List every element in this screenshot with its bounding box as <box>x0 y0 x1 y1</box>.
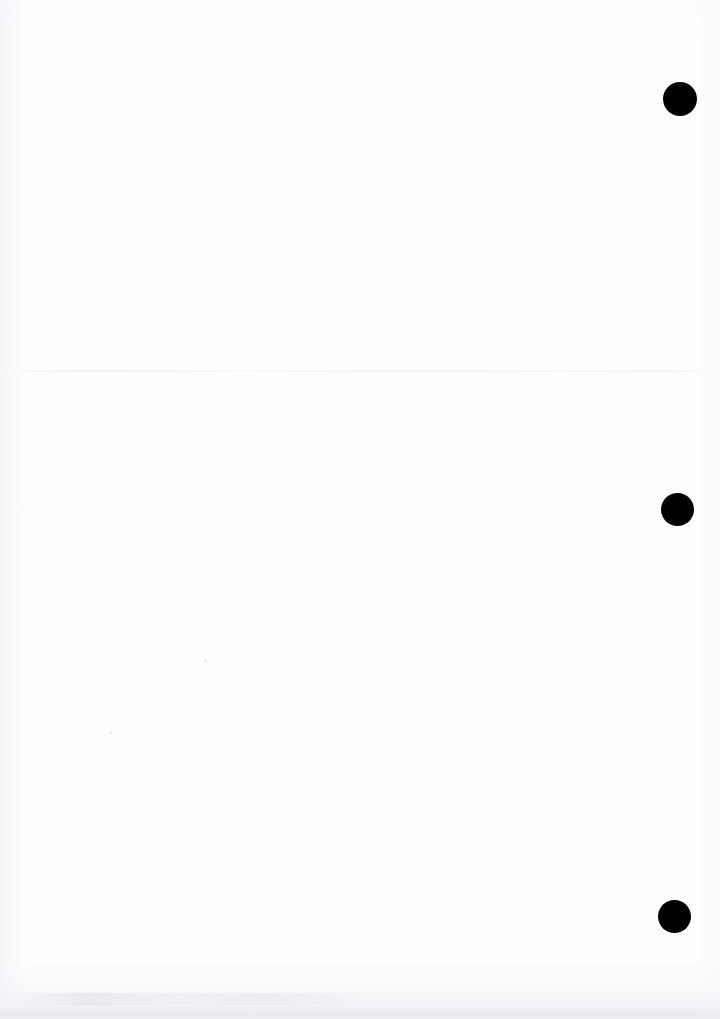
registration-mark-dot <box>658 900 691 933</box>
scanned-page <box>0 0 720 1019</box>
dust-speck <box>109 731 112 734</box>
registration-mark-dot <box>663 82 697 116</box>
dust-speck <box>204 659 207 662</box>
registration-mark-dot <box>661 493 694 526</box>
paper-tone-overlay <box>0 0 720 1019</box>
scan-seam-artifact <box>0 370 720 372</box>
bottom-edge-smudge-streak <box>22 993 362 1005</box>
bottom-edge-smudge-artifact <box>0 990 720 1019</box>
